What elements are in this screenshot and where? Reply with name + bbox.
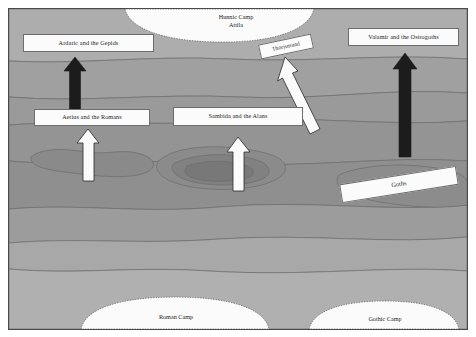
gothic-camp-name: Gothic Camp — [337, 315, 433, 323]
unit-label-valamir-ostrogoths[interactable]: Valamir and the Ostrogoths — [348, 28, 459, 46]
unit-label-sambida-alans[interactable]: Sambida and the Alans — [173, 107, 303, 126]
map-frame: Hunnic Camp Attila Roman Camp Gothic Cam… — [8, 8, 468, 330]
terrain-contours — [9, 9, 467, 329]
unit-label-ardaric-gepids[interactable]: Ardaric and the Gepids — [23, 34, 154, 52]
camp-label-roman: Roman Camp — [121, 313, 231, 321]
contour-band-7 — [9, 237, 467, 273]
camp-label-gothic: Gothic Camp — [337, 315, 433, 323]
roman-camp-name: Roman Camp — [121, 313, 231, 321]
battle-map-figure: Hunnic Camp Attila Roman Camp Gothic Cam… — [0, 0, 476, 337]
hunnic-camp-leader: Attila — [181, 21, 291, 29]
unit-label-aetius-romans[interactable]: Aetius and the Romans — [34, 109, 150, 126]
contour-band-6 — [9, 204, 467, 243]
hunnic-camp-name: Hunnic Camp — [181, 13, 291, 21]
camp-label-hunnic: Hunnic Camp Attila — [181, 13, 291, 29]
